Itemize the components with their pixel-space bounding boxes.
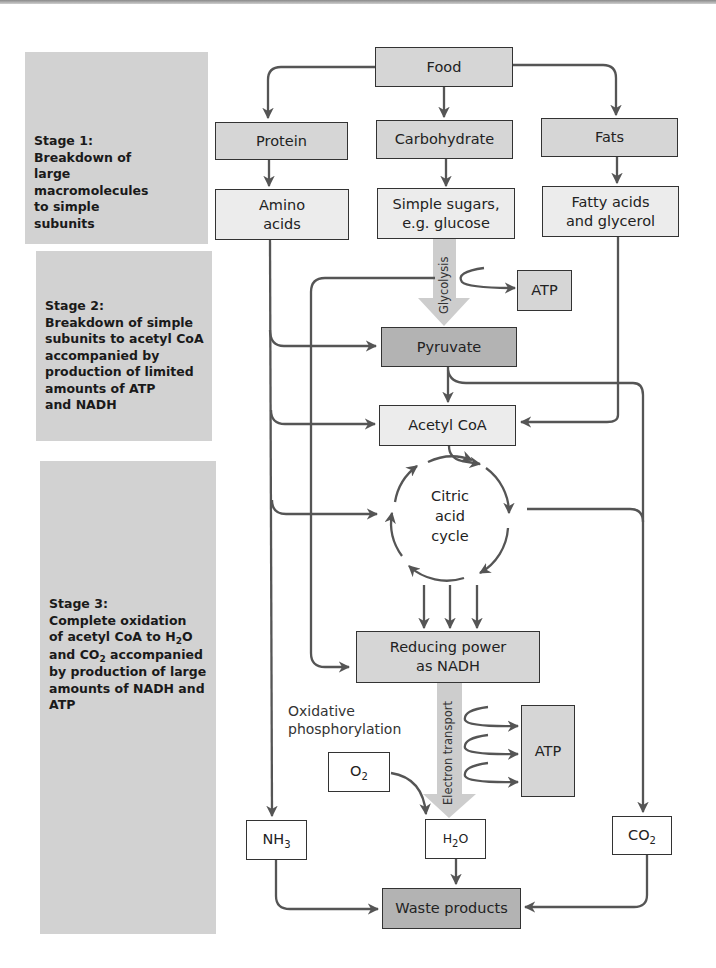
h2o-node: H2O <box>425 819 486 859</box>
o2-node: O2 <box>328 752 390 792</box>
nh3-node: NH3 <box>246 820 307 860</box>
nadh-node: Reducing poweras NADH <box>356 631 540 683</box>
pyruvate-node: Pyruvate <box>381 327 517 367</box>
waste-products-node: Waste products <box>382 888 521 929</box>
fats-node: Fats <box>541 118 678 157</box>
protein-node: Protein <box>215 122 348 160</box>
atp-glycolysis-node: ATP <box>517 270 572 311</box>
acetyl-coa-node: Acetyl CoA <box>379 405 516 446</box>
co2-node: CO2 <box>612 816 672 855</box>
amino-acids-node: Aminoacids <box>215 189 349 240</box>
oxidative-phosphorylation-label: Oxidative phosphorylation <box>288 702 401 738</box>
food-node: Food <box>375 47 513 87</box>
glycolysis-label: Glycolysis <box>437 257 451 314</box>
simple-sugars-node: Simple sugars,e.g. glucose <box>377 188 515 239</box>
atp-oxidative-node: ATP <box>521 705 575 797</box>
carbohydrate-node: Carbohydrate <box>376 120 513 159</box>
electron-transport-label: Electron transport <box>441 701 455 805</box>
fatty-acids-node: Fatty acidsand glycerol <box>542 186 679 237</box>
citric-acid-cycle-label: Citric acid cycle <box>415 486 485 546</box>
